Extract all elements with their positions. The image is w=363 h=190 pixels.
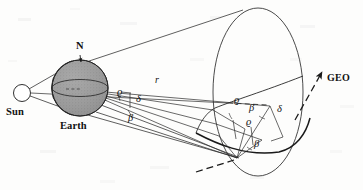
label-geo: GEO bbox=[327, 73, 350, 83]
label-beta-near-earth: β bbox=[128, 113, 133, 124]
label-rho-upper-node: ϱ bbox=[234, 95, 239, 106]
label-delta-right-node: δ bbox=[277, 104, 282, 115]
shadow-cone-diagram bbox=[0, 0, 363, 190]
label-rho-near-earth: ϱ bbox=[117, 87, 122, 98]
label-north-pole: N bbox=[76, 41, 84, 52]
geo-direction-arrow[interactable] bbox=[295, 72, 322, 120]
earth-sphere bbox=[51, 55, 108, 116]
label-delta-near-earth: δ bbox=[136, 94, 141, 105]
label-earth: Earth bbox=[60, 121, 87, 132]
figure-canvas: Sun Earth N GEO r ϱ δ β ϱ β δ ϱ β bbox=[0, 0, 363, 190]
label-beta-upper-node: β bbox=[249, 103, 254, 114]
label-rho-mid-chord: ϱ bbox=[246, 117, 251, 128]
label-radius-r: r bbox=[155, 75, 159, 85]
orbit-tangent-dash bbox=[196, 160, 234, 172]
geo-orbit-ellipse bbox=[213, 8, 303, 176]
sun-circle bbox=[14, 85, 31, 102]
label-sun: Sun bbox=[6, 107, 24, 118]
label-beta-lower-node: β bbox=[254, 139, 259, 150]
orbit-node-angle-frame bbox=[213, 106, 283, 158]
